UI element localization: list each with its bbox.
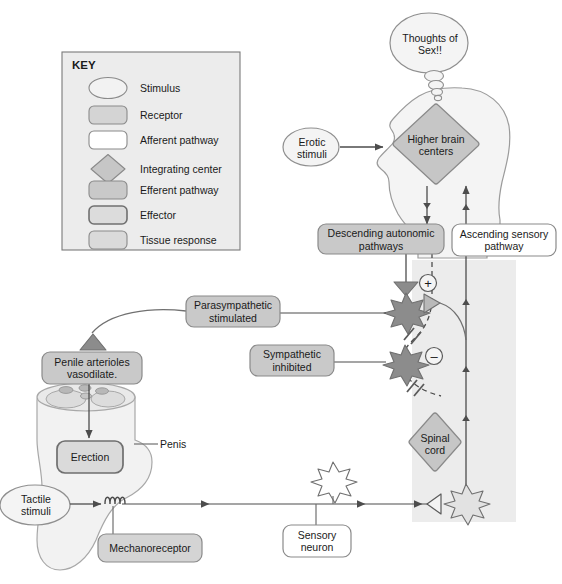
inhibitory-symbol-label: – [425, 347, 443, 365]
thought-bubble-label: Thoughts of Sex!! [396, 27, 464, 61]
spinal-cord-label: Spinal cord [409, 427, 461, 461]
penile-artery-1 [59, 387, 73, 394]
penile-arterioles-synapse-terminal [80, 334, 106, 350]
thought-trail-bubble-4 [434, 95, 441, 100]
descending-autonomic-pathways-label: Descending autonomic pathways [320, 226, 442, 253]
sympathetic-inhibited-label: Sympathetic inhibited [252, 347, 332, 374]
penile-artery-3 [96, 388, 109, 394]
afferent-arrowhead-1 [201, 500, 210, 508]
key-swatch-efferent [89, 181, 127, 199]
penis-label: Penis [160, 436, 208, 452]
diagram-canvas: KEY Stimulus Receptor Afferent pathway I… [0, 0, 562, 584]
key-label-effector: Effector [140, 207, 238, 223]
erection-label: Erection [59, 443, 121, 471]
mechanoreceptor-label: Mechanoreceptor [100, 536, 200, 560]
key-label-afferent-pathway: Afferent pathway [140, 132, 242, 148]
penile-arterioles-label: Penile arterioles vasodilate. [44, 354, 140, 382]
sensory-neuron-star [311, 462, 357, 503]
key-swatch-stimulus [89, 78, 127, 99]
key-label-integrating-center: Integrating center [140, 161, 244, 177]
tactile-stimuli-label: Tactile stimuli [10, 488, 62, 522]
key-label-tissue-response: Tissue response [140, 232, 244, 248]
thought-trail-bubble-3 [432, 89, 443, 96]
parasympathetic-to-penile-curve [92, 310, 186, 333]
excitatory-symbol-label: + [419, 274, 437, 292]
key-title: KEY [72, 58, 132, 74]
thought-trail-bubble-1 [425, 71, 444, 82]
ascending-sensory-pathway-label: Ascending sensory pathway [454, 226, 554, 254]
diagram-vector-layer [0, 0, 562, 584]
higher-brain-centers-label: Higher brain centers [398, 128, 474, 162]
sensory-neuron-label: Sensory neuron [285, 527, 349, 555]
afferent-arrowhead-2 [357, 500, 366, 508]
parasympathetic-stimulated-label: Parasympathetic stimulated [188, 298, 278, 325]
key-label-stimulus: Stimulus [140, 80, 238, 96]
key-swatch-tissue [89, 231, 127, 249]
key-label-efferent-pathway: Efferent pathway [140, 182, 242, 198]
erotic-stimuli-label: Erotic stimuli [285, 131, 339, 165]
penile-vein [81, 393, 92, 399]
key-swatch-receptor [89, 106, 127, 124]
key-swatch-afferent [89, 131, 127, 149]
corpus-cavernosum-right [91, 391, 125, 407]
key-swatch-effector [89, 206, 127, 224]
key-label-receptor: Receptor [140, 107, 238, 123]
